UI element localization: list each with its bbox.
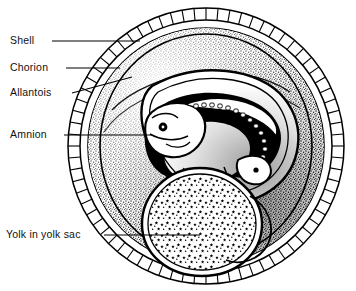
- yolk-sac: [142, 168, 262, 276]
- label-shell: Shell: [10, 34, 34, 46]
- diagram-canvas: [0, 0, 356, 291]
- embryo-diagram: [0, 0, 356, 291]
- label-chorion: Chorion: [10, 61, 48, 73]
- label-allantois: Allantois: [10, 86, 52, 98]
- label-amnion: Amnion: [10, 128, 47, 140]
- label-yolk-in-yolk-sac: Yolk in yolk sac: [6, 228, 81, 240]
